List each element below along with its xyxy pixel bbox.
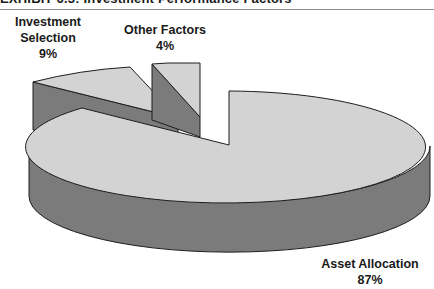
label-investment-selection-line1: Investment [2, 14, 94, 30]
label-investment-selection-line2: Selection [2, 30, 94, 46]
label-other-factors: Other Factors 4% [110, 22, 220, 54]
label-asset-allocation-line1: Asset Allocation [308, 256, 432, 272]
label-investment-selection-pct: 9% [2, 46, 94, 62]
label-other-factors-pct: 4% [110, 38, 220, 54]
label-asset-allocation: Asset Allocation 87% [308, 256, 432, 288]
label-other-factors-line1: Other Factors [110, 22, 220, 38]
label-investment-selection: Investment Selection 9% [2, 14, 94, 62]
slice-asset-allocation [26, 91, 430, 252]
label-asset-allocation-pct: 87% [308, 272, 432, 288]
